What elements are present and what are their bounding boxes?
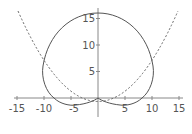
x-tick-label: -10	[36, 103, 52, 114]
x-tick-label: 15	[173, 103, 186, 114]
x-tick-label: 10	[146, 103, 159, 114]
y-tick-label: 10	[82, 40, 95, 51]
x-tick-label: -15	[9, 103, 25, 114]
y-tick-label: 5	[89, 66, 95, 77]
plot: -15 -10 -5 5 10 15 5 10 15	[0, 0, 192, 134]
